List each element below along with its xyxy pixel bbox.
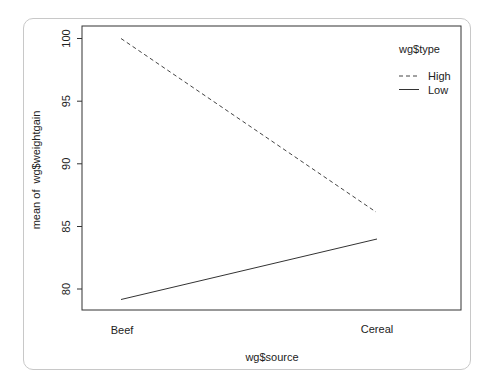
x-tick-label-beef: Beef <box>111 324 135 336</box>
y-tick-label: 85 <box>60 220 72 232</box>
y-axis <box>77 39 82 290</box>
y-tick-label: 90 <box>60 158 72 170</box>
y-tick-label: 95 <box>60 95 72 107</box>
series-line-high <box>121 39 376 213</box>
x-tick-label-cereal: Cereal <box>361 323 393 335</box>
legend-label-high: High <box>428 70 451 82</box>
x-axis-label: wg$source <box>244 351 298 363</box>
legend-title: wg$type <box>398 43 440 55</box>
legend: wg$type High Low <box>398 43 451 96</box>
series-line-low <box>121 239 377 300</box>
interaction-plot: 80 85 90 95 100 mean of wg$weightgain Be… <box>0 0 493 391</box>
y-tick-label: 80 <box>60 283 72 295</box>
legend-label-low: Low <box>428 84 448 96</box>
y-tick-label: 100 <box>60 29 72 47</box>
plot-box <box>82 26 461 310</box>
y-axis-label: mean of wg$weightgain <box>30 111 42 230</box>
